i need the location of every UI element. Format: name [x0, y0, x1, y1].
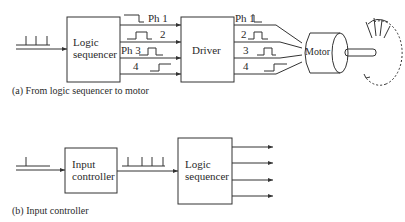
logic-sequencer-label-a: Logic sequencer [73, 36, 117, 60]
caption-b: (b) Input controller [12, 205, 89, 216]
phase-label-out-4: 4 [243, 60, 249, 72]
waveform-ph4-a [150, 64, 171, 71]
phase-label-in-3: Ph 3 [121, 44, 141, 56]
waveform-ph3-b [257, 48, 276, 55]
phase-label-out-1: Ph 1 [235, 12, 255, 24]
waveform-ph1-a [124, 15, 144, 22]
pulse-train-b [122, 157, 165, 166]
waveform-ph3-a [139, 48, 163, 55]
driver-label: Driver [192, 44, 221, 56]
sequencer-line2-b: sequencer [185, 170, 229, 182]
phase-label-out-3: 3 [243, 44, 249, 56]
phase-label-in-2: 2 [160, 28, 166, 40]
logic-sequencer-label-b: Logic sequencer [185, 158, 229, 182]
input-controller-label: Input controller [72, 158, 115, 182]
input-pulse-b [16, 157, 50, 166]
caption-a: (a) From logic sequencer to motor [12, 85, 149, 96]
motor-label: Motor [305, 46, 330, 58]
phase-label-in-1: Ph 1 [148, 12, 168, 24]
logic-line1-b: Logic [185, 158, 229, 170]
input-line1: Input [72, 158, 115, 170]
waveform-ph4-b [264, 64, 287, 71]
waveform-ph2-b [248, 32, 268, 39]
phase-label-in-4: 4 [133, 60, 139, 72]
rotation-indicator [364, 18, 402, 85]
sequencer-line2: sequencer [73, 48, 117, 60]
phase-label-out-2: 2 [241, 28, 247, 40]
diagram-canvas [0, 0, 405, 222]
input-pulse-train-a [16, 36, 50, 45]
controller-line2: controller [72, 170, 115, 182]
waveform-ph2-a [127, 32, 152, 39]
logic-line1: Logic [73, 36, 117, 48]
